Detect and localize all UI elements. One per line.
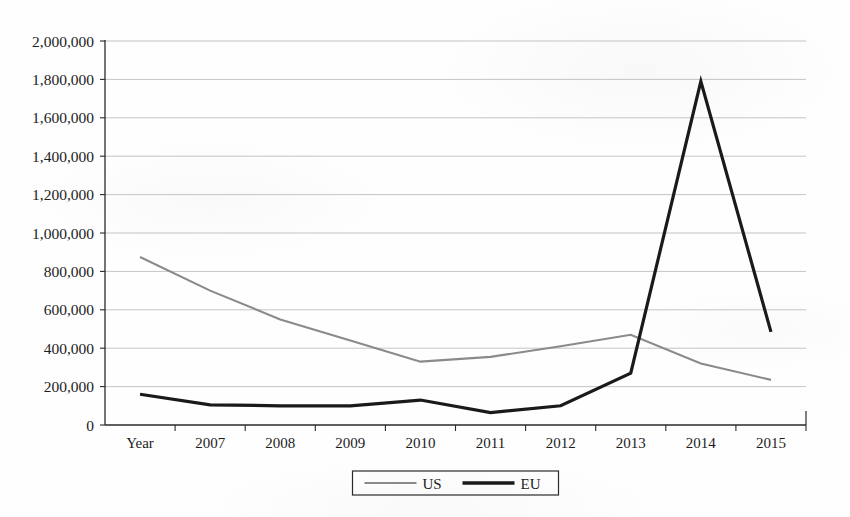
legend-label-eu: EU bbox=[521, 476, 541, 492]
y-axis-tick-label: 600,000 bbox=[44, 301, 95, 318]
x-axis-tick-label: 2011 bbox=[476, 435, 505, 451]
series-line-eu bbox=[140, 81, 771, 412]
chart-legend[interactable]: USEU bbox=[353, 471, 559, 495]
x-axis-tick-label: 2013 bbox=[616, 435, 646, 451]
x-axis-tick-label: 2007 bbox=[195, 435, 226, 451]
legend-item-eu[interactable]: EU bbox=[463, 476, 541, 492]
y-axis-tick-label: 1,000,000 bbox=[32, 225, 94, 242]
line-chart: 0200,000400,000600,000800,0001,000,0001,… bbox=[0, 0, 850, 517]
chart-canvas: 0200,000400,000600,000800,0001,000,0001,… bbox=[0, 0, 850, 517]
legend-label-us: US bbox=[423, 476, 442, 492]
y-axis-tick-label: 1,800,000 bbox=[32, 71, 94, 88]
x-axis-tick-label: 2014 bbox=[686, 435, 717, 451]
y-axis-tick-label: 400,000 bbox=[44, 340, 95, 357]
y-axis-tick-label: 1,600,000 bbox=[32, 109, 94, 126]
x-axis-tick-label: 2008 bbox=[265, 435, 295, 451]
y-axis-tick-label: 1,400,000 bbox=[32, 148, 94, 165]
y-axis-tick-label: 800,000 bbox=[44, 263, 95, 280]
y-axis-tick-label: 200,000 bbox=[44, 378, 95, 395]
x-axis-tick-labels: Year200720082009201020112012201320142015 bbox=[126, 435, 786, 451]
x-axis-tick-label: 2010 bbox=[405, 435, 435, 451]
gridlines bbox=[105, 41, 806, 387]
x-axis-tick-label: Year bbox=[126, 435, 154, 451]
legend-item-us[interactable]: US bbox=[365, 476, 442, 492]
y-axis-tick-marks bbox=[100, 41, 105, 425]
data-series bbox=[140, 81, 771, 412]
y-axis-tick-label: 2,000,000 bbox=[32, 33, 94, 50]
x-axis-tick-label: 2009 bbox=[335, 435, 365, 451]
y-axis-tick-label: 1,200,000 bbox=[32, 186, 94, 203]
x-axis-tick-label: 2012 bbox=[546, 435, 576, 451]
chart-axes bbox=[105, 40, 806, 425]
x-axis-tick-marks bbox=[175, 425, 806, 431]
series-line-us bbox=[140, 257, 771, 380]
y-axis-tick-labels: 0200,000400,000600,000800,0001,000,0001,… bbox=[32, 33, 94, 434]
y-axis-tick-label: 0 bbox=[86, 417, 94, 434]
x-axis-tick-label: 2015 bbox=[756, 435, 786, 451]
